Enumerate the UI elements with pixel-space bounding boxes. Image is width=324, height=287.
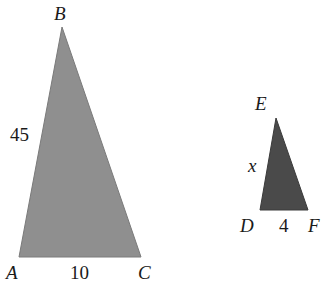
vertex-label-d: D	[239, 215, 254, 236]
side-label-ac: 10	[70, 262, 89, 283]
side-label-ab: 45	[10, 124, 29, 145]
side-label-df: 4	[279, 215, 289, 236]
side-label-de: x	[247, 155, 257, 176]
vertex-label-e: E	[254, 93, 267, 114]
triangle-abc	[19, 27, 141, 257]
vertex-label-a: A	[4, 262, 18, 283]
vertex-label-b: B	[54, 3, 66, 24]
triangle-def	[260, 118, 308, 210]
vertex-label-f: F	[307, 215, 320, 236]
diagram-canvas: B A C 45 10 E D F x 4	[0, 0, 324, 287]
vertex-label-c: C	[138, 262, 151, 283]
